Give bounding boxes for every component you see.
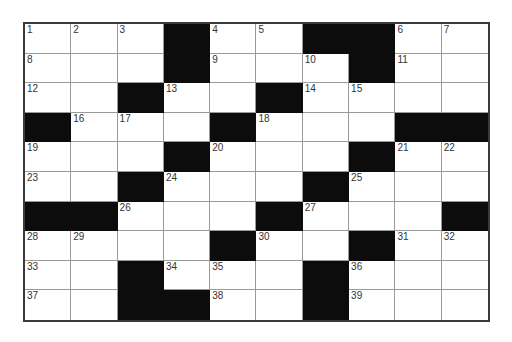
clue-number: 18 xyxy=(258,114,269,124)
grid-cell[interactable]: 3 xyxy=(118,24,164,54)
black-square xyxy=(210,113,256,143)
clue-number: 38 xyxy=(212,291,223,301)
grid-cell[interactable]: 7 xyxy=(442,24,488,54)
grid-cell[interactable]: 17 xyxy=(118,113,164,143)
grid-cell[interactable]: 36 xyxy=(349,261,395,291)
grid-cell[interactable]: 8 xyxy=(25,54,71,84)
black-square xyxy=(256,83,302,113)
clue-number: 12 xyxy=(27,84,38,94)
grid-cell[interactable]: 11 xyxy=(395,54,441,84)
grid-cell[interactable] xyxy=(118,54,164,84)
grid-cell[interactable] xyxy=(442,54,488,84)
grid-cell[interactable]: 19 xyxy=(25,142,71,172)
clue-number: 35 xyxy=(212,262,223,272)
grid-cell[interactable]: 28 xyxy=(25,231,71,261)
clue-number: 31 xyxy=(397,232,408,242)
grid-cell[interactable]: 2 xyxy=(71,24,117,54)
grid-cell[interactable] xyxy=(71,83,117,113)
clue-number: 14 xyxy=(305,84,316,94)
grid-cell[interactable]: 34 xyxy=(164,261,210,291)
grid-cell[interactable] xyxy=(164,113,210,143)
grid-cell[interactable]: 13 xyxy=(164,83,210,113)
grid-cell[interactable] xyxy=(164,231,210,261)
grid-cell[interactable] xyxy=(164,202,210,232)
grid-cell[interactable]: 14 xyxy=(303,83,349,113)
grid-cell[interactable]: 1 xyxy=(25,24,71,54)
grid-cell[interactable] xyxy=(395,172,441,202)
grid-cell[interactable] xyxy=(303,231,349,261)
grid-cell[interactable] xyxy=(256,142,302,172)
grid-cell[interactable]: 12 xyxy=(25,83,71,113)
grid-cell[interactable]: 10 xyxy=(303,54,349,84)
grid-cell[interactable]: 27 xyxy=(303,202,349,232)
black-square xyxy=(118,83,164,113)
grid-cell[interactable]: 25 xyxy=(349,172,395,202)
grid-cell[interactable]: 23 xyxy=(25,172,71,202)
black-square xyxy=(25,113,71,143)
grid-cell[interactable]: 37 xyxy=(25,290,71,320)
grid-cell[interactable] xyxy=(71,172,117,202)
clue-number: 6 xyxy=(397,25,403,35)
grid-cell[interactable]: 33 xyxy=(25,261,71,291)
grid-cell[interactable] xyxy=(118,142,164,172)
grid-cell[interactable]: 21 xyxy=(395,142,441,172)
grid-cell[interactable]: 16 xyxy=(71,113,117,143)
black-square xyxy=(303,172,349,202)
grid-cell[interactable] xyxy=(349,202,395,232)
grid-cell[interactable] xyxy=(395,261,441,291)
clue-number: 4 xyxy=(212,25,218,35)
grid-cell[interactable]: 26 xyxy=(118,202,164,232)
grid-cell[interactable] xyxy=(256,290,302,320)
black-square xyxy=(118,172,164,202)
grid-cell[interactable] xyxy=(395,83,441,113)
grid-cell[interactable]: 4 xyxy=(210,24,256,54)
clue-number: 37 xyxy=(27,291,38,301)
grid-cell[interactable]: 5 xyxy=(256,24,302,54)
grid-cell[interactable] xyxy=(71,54,117,84)
grid-cell[interactable] xyxy=(442,172,488,202)
grid-cell[interactable]: 15 xyxy=(349,83,395,113)
grid-cell[interactable] xyxy=(71,261,117,291)
grid-cell[interactable] xyxy=(210,83,256,113)
black-square xyxy=(164,290,210,320)
grid-cell[interactable]: 30 xyxy=(256,231,302,261)
grid-cell[interactable]: 29 xyxy=(71,231,117,261)
grid-cell[interactable] xyxy=(395,202,441,232)
grid-cell[interactable]: 22 xyxy=(442,142,488,172)
grid-cell[interactable]: 24 xyxy=(164,172,210,202)
clue-number: 17 xyxy=(120,114,131,124)
grid-cell[interactable] xyxy=(256,172,302,202)
grid-cell[interactable]: 39 xyxy=(349,290,395,320)
grid-cell[interactable] xyxy=(118,231,164,261)
grid-cell[interactable] xyxy=(442,83,488,113)
grid-cell[interactable]: 38 xyxy=(210,290,256,320)
grid-cell[interactable]: 32 xyxy=(442,231,488,261)
grid-cell[interactable]: 20 xyxy=(210,142,256,172)
clue-number: 1 xyxy=(27,25,33,35)
grid-cell[interactable] xyxy=(210,202,256,232)
grid-cell[interactable] xyxy=(442,261,488,291)
clue-number: 11 xyxy=(397,55,407,65)
grid-cell[interactable] xyxy=(256,54,302,84)
grid-cell[interactable]: 18 xyxy=(256,113,302,143)
black-square xyxy=(303,24,349,54)
grid-cell[interactable] xyxy=(303,142,349,172)
grid-cell[interactable] xyxy=(71,142,117,172)
black-square xyxy=(164,54,210,84)
grid-cell[interactable]: 9 xyxy=(210,54,256,84)
clue-number: 21 xyxy=(397,143,408,153)
grid-cell[interactable] xyxy=(71,290,117,320)
grid-cell[interactable]: 6 xyxy=(395,24,441,54)
black-square xyxy=(395,113,441,143)
clue-number: 30 xyxy=(258,232,269,242)
grid-cell[interactable]: 31 xyxy=(395,231,441,261)
grid-cell[interactable] xyxy=(395,290,441,320)
grid-cell[interactable] xyxy=(442,290,488,320)
clue-number: 19 xyxy=(27,143,38,153)
grid-cell[interactable]: 35 xyxy=(210,261,256,291)
grid-cell[interactable] xyxy=(210,172,256,202)
grid-cell[interactable] xyxy=(349,113,395,143)
grid-cell[interactable] xyxy=(303,113,349,143)
grid-cell[interactable] xyxy=(256,261,302,291)
clue-number: 23 xyxy=(27,173,38,183)
